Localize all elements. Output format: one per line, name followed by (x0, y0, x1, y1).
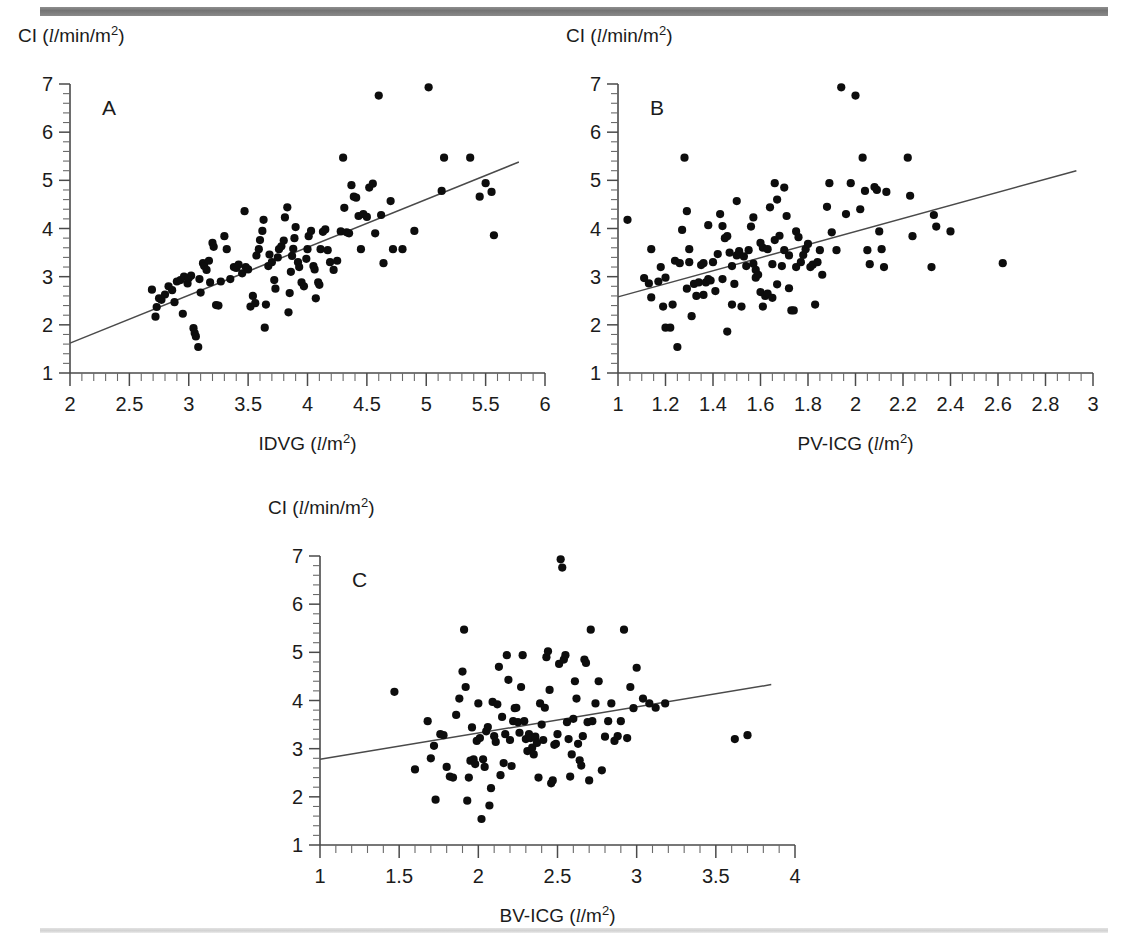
data-point (773, 196, 781, 204)
data-point (357, 245, 365, 253)
x-tick-label: 5.5 (472, 393, 500, 415)
data-point (747, 222, 755, 230)
data-point (440, 154, 448, 162)
data-point (519, 651, 527, 659)
data-point (379, 259, 387, 267)
data-point (290, 234, 298, 242)
data-point (265, 250, 273, 258)
data-point (280, 236, 288, 244)
data-point (688, 312, 696, 320)
x-axis-title: IDVG (l/m2) (258, 431, 356, 455)
data-point (692, 292, 700, 300)
data-point (474, 699, 482, 707)
data-point (300, 282, 308, 290)
y-tick-label: 6 (42, 121, 53, 143)
data-point (614, 732, 622, 740)
data-point (439, 731, 447, 739)
x-axis-ticks: 11.21.41.61.822.22.42.62.83 (612, 373, 1098, 415)
data-point (506, 736, 514, 744)
data-point (255, 245, 263, 253)
x-tick-label: 2 (850, 393, 861, 415)
data-point (818, 271, 826, 279)
y-axis-ticks: 1234567 (292, 545, 320, 856)
data-point (375, 91, 383, 99)
data-point (538, 720, 546, 728)
data-point (493, 700, 501, 708)
data-points (390, 555, 751, 823)
data-points (623, 83, 1006, 351)
y-tick-label: 7 (42, 73, 53, 95)
data-point (927, 263, 935, 271)
data-point (302, 255, 310, 263)
data-point (330, 266, 338, 274)
data-point (790, 306, 798, 314)
data-point (861, 187, 869, 195)
y-axis-ticks: 1234567 (42, 73, 70, 384)
data-point (661, 274, 669, 282)
data-point (794, 233, 802, 241)
x-tick-label: 2.5 (115, 393, 143, 415)
data-point (324, 246, 332, 254)
data-point (476, 193, 484, 201)
data-point (312, 294, 320, 302)
data-point (187, 272, 195, 280)
data-point (680, 154, 688, 162)
data-point (194, 343, 202, 351)
x-tick-label: 2.8 (1032, 393, 1060, 415)
x-tick-label: 4.5 (353, 393, 381, 415)
data-point (832, 246, 840, 254)
data-point (704, 221, 712, 229)
data-point (863, 246, 871, 254)
data-point (283, 203, 291, 211)
data-point (572, 694, 580, 702)
panel-letter-c: C (352, 568, 367, 591)
data-point (828, 228, 836, 236)
data-point (425, 83, 433, 91)
data-point (316, 245, 324, 253)
data-point (766, 203, 774, 211)
data-point (168, 286, 176, 294)
data-point (825, 179, 833, 187)
data-point (811, 301, 819, 309)
data-point (558, 563, 566, 571)
data-point (321, 225, 329, 233)
data-point (179, 310, 187, 318)
y-tick-label: 4 (42, 218, 53, 240)
data-point (591, 699, 599, 707)
data-point (458, 668, 466, 676)
x-axis-title: PV-ICG (l/m2) (798, 431, 914, 455)
x-tick-label: 3.5 (234, 393, 262, 415)
data-point (482, 179, 490, 187)
data-point (595, 677, 603, 685)
data-point (503, 651, 511, 659)
data-point (270, 276, 278, 284)
data-point (352, 194, 360, 202)
data-point (695, 278, 703, 286)
data-point (577, 761, 585, 769)
data-point (604, 717, 612, 725)
data-point (153, 303, 161, 311)
data-point (544, 647, 552, 655)
data-point (785, 251, 793, 259)
data-point (709, 258, 717, 266)
y-axis-title: CI (l/min/m2) (566, 23, 672, 47)
data-point (517, 683, 525, 691)
y-tick-label: 2 (42, 314, 53, 336)
data-point (623, 734, 631, 742)
data-point (484, 723, 492, 731)
data-point (492, 738, 500, 746)
data-point (585, 776, 593, 784)
data-point (666, 324, 674, 332)
x-tick-label: 2.2 (889, 393, 917, 415)
x-tick-label: 1.4 (699, 393, 727, 415)
data-point (530, 750, 538, 758)
data-point (749, 213, 757, 221)
data-point (504, 676, 512, 684)
x-axis-ticks: 22.533.544.555.56 (64, 373, 550, 415)
panel-letter-b: B (650, 96, 664, 119)
data-point (515, 729, 523, 737)
data-point (773, 280, 781, 288)
y-tick-label: 1 (292, 834, 303, 856)
y-axis-title: CI (l/min/m2) (18, 23, 124, 47)
data-point (295, 263, 303, 271)
